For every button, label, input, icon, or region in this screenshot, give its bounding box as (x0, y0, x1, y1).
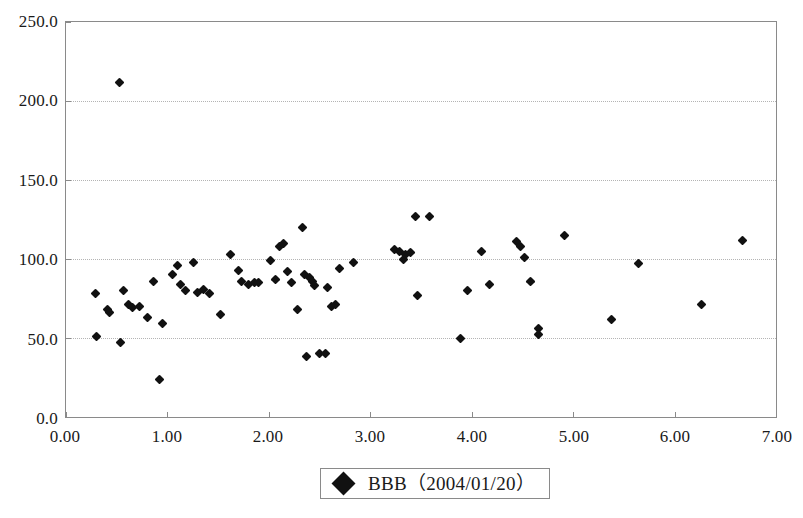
data-point (301, 352, 311, 362)
chart-legend: BBB（2004/01/20） (320, 468, 550, 499)
data-point (697, 300, 707, 310)
x-tick-1 (167, 412, 168, 417)
data-point (297, 222, 307, 232)
diamond-marker-icon (331, 471, 355, 495)
data-point (266, 256, 276, 266)
data-point (116, 338, 126, 348)
data-point (90, 289, 100, 299)
y-tick-label-200: 200.0 (0, 92, 58, 109)
y-tick-100 (66, 259, 71, 260)
data-point (413, 290, 423, 300)
y-tick-label-0: 0.0 (0, 410, 58, 427)
data-point (282, 267, 292, 277)
data-point (292, 305, 302, 315)
x-tick-label-2: 2.00 (228, 428, 308, 445)
x-tick-5 (573, 412, 574, 417)
data-point (115, 77, 125, 87)
x-tick-label-1: 1.00 (127, 428, 207, 445)
y-tick-50 (66, 338, 71, 339)
data-point (215, 309, 225, 319)
data-point (559, 230, 569, 240)
data-point (134, 301, 144, 311)
data-point (456, 333, 466, 343)
x-tick-4 (472, 412, 473, 417)
data-point (485, 279, 495, 289)
legend-label: BBB（2004/01/20） (368, 474, 535, 493)
data-point (424, 211, 434, 221)
data-point (607, 314, 617, 324)
data-point (168, 270, 178, 280)
x-tick-label-6: 6.00 (635, 428, 715, 445)
data-point (633, 259, 643, 269)
x-tick-6 (675, 412, 676, 417)
y-tick-label-50: 50.0 (0, 331, 58, 348)
data-point (463, 286, 473, 296)
data-point (323, 282, 333, 292)
y-tick-200 (66, 101, 71, 102)
data-point (105, 308, 115, 318)
y-tick-250 (66, 22, 71, 23)
data-point (181, 286, 191, 296)
data-point (321, 349, 331, 359)
x-tick-label-5: 5.00 (534, 428, 614, 445)
scatter-chart: 250.0 200.0 150.0 100.0 50.0 0.0 0.00 1.… (0, 0, 803, 518)
plot-area (65, 21, 777, 418)
gridline-y-100 (66, 259, 776, 260)
data-point (157, 319, 167, 329)
y-tick-label-150: 150.0 (0, 172, 58, 189)
x-tick-label-7: 7.00 (737, 428, 803, 445)
data-point (173, 260, 183, 270)
y-tick-150 (66, 180, 71, 181)
data-point (142, 313, 152, 323)
x-tick-label-4: 4.00 (432, 428, 512, 445)
data-point (477, 246, 487, 256)
data-point (520, 252, 530, 262)
gridline-y-150 (66, 180, 776, 181)
data-point (271, 275, 281, 285)
y-tick-label-100: 100.0 (0, 251, 58, 268)
data-point (411, 211, 421, 221)
gridline-y-50 (66, 338, 776, 339)
data-point (526, 276, 536, 286)
gridline-y-200 (66, 101, 776, 102)
x-tick-label-3: 3.00 (330, 428, 410, 445)
x-tick-7 (776, 412, 777, 417)
data-point (233, 265, 243, 275)
data-point (335, 264, 345, 274)
data-point (148, 276, 158, 286)
data-point (310, 281, 320, 291)
x-tick-3 (370, 412, 371, 417)
data-point (738, 235, 748, 245)
data-point (286, 278, 296, 288)
data-point (91, 331, 101, 341)
x-tick-label-0: 0.00 (25, 428, 105, 445)
x-tick-2 (269, 412, 270, 417)
data-point (119, 286, 129, 296)
data-point (225, 249, 235, 259)
y-tick-label-250: 250.0 (0, 13, 58, 30)
data-point (154, 374, 164, 384)
y-tick-0 (66, 417, 71, 418)
